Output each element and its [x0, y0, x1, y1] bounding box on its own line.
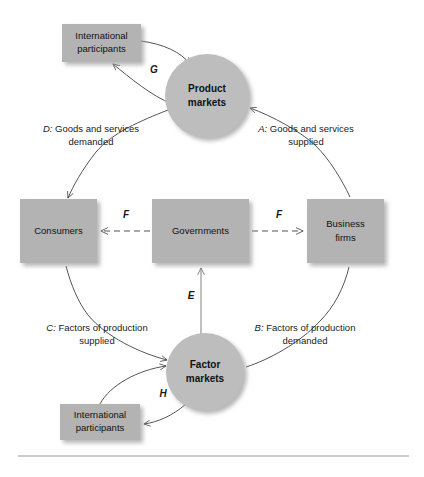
flow-label-B: B: Factors of production demanded: [255, 322, 356, 346]
flow-arc-B-business-firms-to-factor-markets: [320, 267, 349, 321]
factor-markets-label-line1: Factor: [190, 359, 221, 370]
node-governments: Governments: [152, 199, 249, 263]
flow-label-B-key: B:: [255, 322, 264, 333]
node-product-markets: Product markets: [165, 54, 249, 138]
flow-arc-C-consumers-to-factor-markets: [66, 266, 88, 315]
flow-letter-E: E: [188, 290, 195, 301]
flow-letter-H: H: [159, 388, 167, 399]
flow-label-D-line2: demanded: [69, 136, 114, 147]
flow-label-D-key: D:: [43, 123, 53, 134]
node-business-firms: Business firms: [307, 199, 384, 263]
international-top-label-line1: International: [75, 30, 127, 41]
flow-label-B-line1: Factors of production: [266, 322, 355, 333]
flow-arc-G-to-product-markets: [141, 41, 190, 64]
flow-label-A-key: A:: [257, 123, 267, 134]
flow-letter-F-left: F: [123, 209, 130, 220]
svg-text:A: Goods and services: A: Goods and services: [257, 123, 354, 134]
flow-arc-H-factor-markets-to-international-bottom: [144, 404, 186, 424]
flow-label-D-line1: Goods and services: [55, 123, 139, 134]
flow-label-C: C: Factors of production supplied: [46, 322, 147, 346]
flow-label-C-line1: Factors of production: [58, 322, 147, 333]
flow-letter-F-right: F: [276, 209, 283, 220]
business-firms-label-line1: Business: [326, 218, 365, 229]
flow-arc-product-markets-to-international-top: [113, 64, 172, 104]
svg-text:D: Goods and services: D: Goods and services: [43, 123, 139, 134]
flow-arc-A-business-firms-to-product-markets: [316, 146, 350, 197]
flow-arc-D-lower-segment: [68, 152, 96, 198]
node-factor-markets: Factor markets: [166, 333, 244, 411]
governments-label: Governments: [172, 225, 229, 236]
international-bottom-label-line2: participants: [76, 422, 125, 433]
international-top-label-line2: participants: [77, 43, 126, 54]
factor-markets-label-line2: markets: [186, 373, 225, 384]
svg-text:B: Factors of production: B: Factors of production: [255, 322, 356, 333]
flow-label-A-line1: Goods and services: [270, 123, 354, 134]
flow-label-A-line2: supplied: [288, 136, 323, 147]
product-markets-label-line1: Product: [188, 83, 226, 94]
svg-text:C: Factors of production: C: Factors of production: [46, 322, 147, 333]
product-markets-label-line2: markets: [188, 97, 227, 108]
flow-label-C-line2: supplied: [79, 335, 114, 346]
node-international-participants-top: International participants: [62, 24, 141, 62]
business-firms-label-line2: firms: [335, 232, 356, 243]
flow-letter-G: G: [150, 64, 158, 75]
node-consumers: Consumers: [20, 199, 97, 263]
flow-label-C-key: C:: [46, 322, 56, 333]
node-international-participants-bottom: International participants: [60, 404, 140, 440]
flow-arc-international-bottom-to-factor-markets: [100, 366, 166, 404]
international-bottom-label-line1: International: [74, 409, 126, 420]
consumers-label: Consumers: [34, 225, 83, 236]
flow-label-A: A: Goods and services supplied: [257, 123, 354, 147]
flow-label-D: D: Goods and services demanded: [43, 123, 139, 147]
circular-flow-diagram: International participants Product marke…: [0, 0, 424, 477]
flow-label-B-line2: demanded: [283, 335, 328, 346]
